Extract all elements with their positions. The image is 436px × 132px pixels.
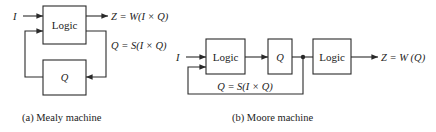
mealy-input-label: I — [12, 11, 17, 22]
mealy-output-equation: Z = W(I × Q) — [111, 11, 169, 23]
mealy-logic-label: Logic — [52, 19, 78, 31]
mealy-state-equation: Q = S(I × Q) — [111, 40, 167, 52]
mealy-state-label: Q — [61, 72, 69, 83]
mealy-next-state-wire — [86, 31, 106, 77]
moore-logic1-label: Logic — [213, 51, 239, 63]
moore-state-equation: Q = S(I × Q) — [217, 81, 273, 93]
state-machine-diagram: I Logic Z = W(I × Q) Q = S(I × Q) Q (a) … — [0, 0, 436, 132]
mealy-caption: (a) Mealy machine — [22, 112, 102, 124]
moore-machine: I Logic Q Logic Z = W (Q) Q = S(I × Q) (… — [175, 39, 426, 124]
moore-logic2-label: Logic — [319, 51, 345, 63]
moore-input-label: I — [175, 52, 180, 63]
mealy-feedback-wire — [25, 31, 43, 77]
mealy-machine: I Logic Z = W(I × Q) Q = S(I × Q) Q (a) … — [12, 6, 169, 124]
moore-state-label: Q — [276, 52, 284, 63]
moore-caption: (b) Moore machine — [232, 112, 313, 124]
moore-output-equation: Z = W (Q) — [381, 52, 426, 64]
